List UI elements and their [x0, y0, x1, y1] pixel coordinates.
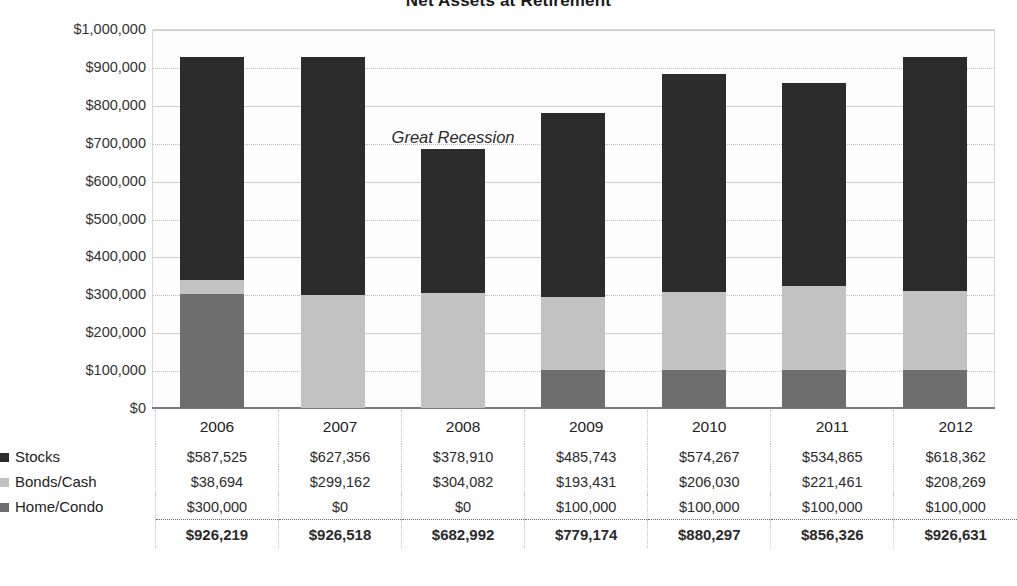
bars-layer — [152, 29, 995, 408]
y-axis-tick-label: $600,000 — [6, 173, 146, 189]
stacked-bar[interactable] — [180, 57, 244, 408]
stacked-bar[interactable] — [301, 57, 365, 408]
table-cell-value: $378,910 — [402, 444, 525, 469]
bar-segment-stocks[interactable] — [541, 113, 605, 297]
table-cell-total: $926,631 — [894, 520, 1017, 549]
bar-slot — [393, 29, 513, 408]
bar-segment-bonds-cash[interactable] — [421, 293, 485, 408]
bar-segment-home-condo[interactable] — [903, 370, 967, 408]
y-axis-tick-label: $200,000 — [6, 324, 146, 340]
bar-segment-bonds-cash[interactable] — [180, 280, 244, 295]
x-axis-category-label: 2006 — [155, 410, 278, 444]
y-axis-tick-label: $1,000,000 — [6, 21, 146, 37]
legend-swatch-icon — [0, 478, 9, 487]
table-cell-value: $304,082 — [402, 469, 525, 494]
table-cell-value: $299,162 — [278, 469, 401, 494]
x-axis-category-label: 2010 — [648, 410, 771, 444]
table-cell-value: $100,000 — [894, 494, 1017, 520]
bar-segment-stocks[interactable] — [782, 83, 846, 286]
x-axis-category-label: 2008 — [402, 410, 525, 444]
table-cell-value: $100,000 — [771, 494, 894, 520]
stacked-bar[interactable] — [662, 74, 726, 408]
bar-segment-home-condo[interactable] — [180, 294, 244, 408]
x-axis-category-label: 2007 — [278, 410, 401, 444]
bar-segment-bonds-cash[interactable] — [782, 286, 846, 370]
y-axis-tick-label: $300,000 — [6, 286, 146, 302]
table-cell-value: $627,356 — [278, 444, 401, 469]
table-total-label-cell — [0, 520, 155, 549]
bar-slot — [513, 29, 633, 408]
legend-item-label: Home/Condo — [15, 498, 103, 515]
chart-container: Net Assets at Retirement $0$100,000$200,… — [0, 0, 1017, 586]
x-axis-category-label: 2011 — [771, 410, 894, 444]
bar-segment-stocks[interactable] — [301, 57, 365, 295]
table-row-years: 2006200720082009201020112012 — [0, 410, 1017, 444]
x-axis-category-label: 2009 — [525, 410, 648, 444]
table-cell-value: $574,267 — [648, 444, 771, 469]
table-cell-value: $587,525 — [155, 444, 278, 469]
legend-swatch-icon — [0, 503, 9, 512]
table-cell-value: $38,694 — [155, 469, 278, 494]
y-axis-tick-label: $100,000 — [6, 362, 146, 378]
y-axis-tick-label: $400,000 — [6, 248, 146, 264]
data-table: 2006200720082009201020112012Stocks$587,5… — [0, 410, 1017, 548]
y-axis: $0$100,000$200,000$300,000$400,000$500,0… — [0, 29, 146, 408]
legend-item-label: Bonds/Cash — [15, 473, 97, 490]
legend-item-label: Stocks — [15, 448, 60, 465]
table-cell-value: $618,362 — [894, 444, 1017, 469]
bar-segment-bonds-cash[interactable] — [541, 297, 605, 370]
table-row: Bonds/Cash$38,694$299,162$304,082$193,43… — [0, 469, 1017, 494]
table-corner-cell — [0, 410, 155, 444]
bar-slot — [152, 29, 272, 408]
table-cell-value: $193,431 — [525, 469, 648, 494]
table-cell-total: $856,326 — [771, 520, 894, 549]
table-row: Stocks$587,525$627,356$378,910$485,743$5… — [0, 444, 1017, 469]
chart-title: Net Assets at Retirement — [0, 0, 1017, 11]
table-row-total: $926,219$926,518$682,992$779,174$880,297… — [0, 520, 1017, 549]
y-axis-tick-label: $500,000 — [6, 211, 146, 227]
table-row: Home/Condo$300,000$0$0$100,000$100,000$1… — [0, 494, 1017, 520]
bar-segment-stocks[interactable] — [421, 149, 485, 293]
stacked-bar[interactable] — [782, 83, 846, 408]
stacked-bar[interactable] — [903, 57, 967, 408]
bar-segment-stocks[interactable] — [662, 74, 726, 292]
table-cell-total: $779,174 — [525, 520, 648, 549]
bar-segment-stocks[interactable] — [180, 57, 244, 280]
bar-segment-home-condo[interactable] — [662, 370, 726, 408]
table-cell-value: $100,000 — [525, 494, 648, 520]
table-cell-total: $880,297 — [648, 520, 771, 549]
bar-slot — [875, 29, 995, 408]
legend-item-home-condo[interactable]: Home/Condo — [0, 494, 155, 520]
bar-segment-bonds-cash[interactable] — [662, 292, 726, 370]
bar-segment-bonds-cash[interactable] — [301, 295, 365, 408]
table-cell-value: $206,030 — [648, 469, 771, 494]
table-cell-value: $534,865 — [771, 444, 894, 469]
legend-swatch-icon — [0, 453, 9, 462]
bar-segment-home-condo[interactable] — [541, 370, 605, 408]
y-axis-tick-label: $700,000 — [6, 135, 146, 151]
chart-annotation: Great Recession — [392, 128, 515, 147]
bar-segment-home-condo[interactable] — [782, 370, 846, 408]
table-cell-value: $0 — [278, 494, 401, 520]
bar-slot — [634, 29, 754, 408]
legend-item-bonds-cash[interactable]: Bonds/Cash — [0, 469, 155, 494]
table-cell-total: $682,992 — [402, 520, 525, 549]
table-cell-total: $926,219 — [155, 520, 278, 549]
y-axis-tick-label: $900,000 — [6, 59, 146, 75]
table-cell-value: $485,743 — [525, 444, 648, 469]
y-axis-tick-label: $800,000 — [6, 97, 146, 113]
table-cell-value: $221,461 — [771, 469, 894, 494]
stacked-bar[interactable] — [541, 113, 605, 408]
table-cell-value: $100,000 — [648, 494, 771, 520]
table-cell-value: $208,269 — [894, 469, 1017, 494]
stacked-bar[interactable] — [421, 149, 485, 408]
bar-segment-bonds-cash[interactable] — [903, 291, 967, 370]
table-cell-total: $926,518 — [278, 520, 401, 549]
table-cell-value: $300,000 — [155, 494, 278, 520]
x-axis-category-label: 2012 — [894, 410, 1017, 444]
bar-segment-stocks[interactable] — [903, 57, 967, 291]
table-cell-value: $0 — [402, 494, 525, 520]
bar-slot — [272, 29, 392, 408]
legend-item-stocks[interactable]: Stocks — [0, 444, 155, 469]
bar-slot — [754, 29, 874, 408]
